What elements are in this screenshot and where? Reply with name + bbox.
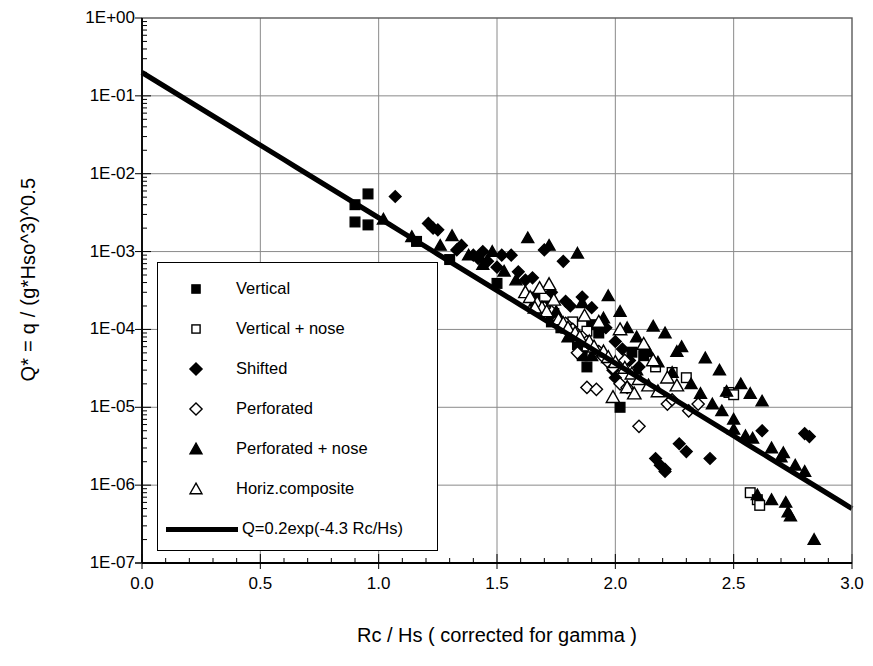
data-point-filled-triangle	[602, 290, 614, 301]
legend-marker-filled-diamond	[174, 349, 230, 389]
x-tick-label: 1.0	[349, 575, 409, 592]
data-point-open-diamond	[581, 381, 593, 393]
legend-marker-filled-triangle	[174, 429, 230, 469]
data-point-filled-diamond	[389, 191, 401, 203]
legend-label: Horiz.composite	[236, 479, 354, 498]
y-tick-label: 1E+00	[39, 9, 135, 26]
data-point-filled-triangle	[699, 352, 711, 363]
data-point-filled-triangle	[659, 327, 671, 338]
legend-item: Q=0.2exp(-4.3 Rc/Hs)	[158, 509, 439, 549]
data-point-filled-triangle	[706, 398, 718, 409]
data-point-filled-triangle	[647, 320, 659, 331]
data-point-filled-triangle	[780, 497, 792, 508]
legend-item: Shifted	[158, 349, 439, 389]
data-point-filled-triangle	[766, 442, 778, 453]
data-point-filled-triangle	[446, 230, 458, 241]
legend-line-swatch	[166, 527, 238, 532]
data-point-open-diamond	[590, 383, 602, 395]
series-horiz-composite	[519, 278, 684, 403]
y-tick-label: 1E-04	[39, 320, 135, 337]
x-tick-label: 0.0	[112, 575, 172, 592]
data-point-filled-square	[615, 402, 625, 412]
data-point-filled-square	[363, 220, 373, 230]
legend-item: Perforated + nose	[158, 429, 439, 469]
x-tick-label: 0.5	[230, 575, 290, 592]
data-point-filled-triangle	[713, 364, 725, 375]
data-point-filled-triangle	[777, 447, 789, 458]
data-point-filled-square	[582, 362, 592, 372]
data-point-open-diamond	[633, 420, 645, 432]
data-point-filled-diamond	[704, 453, 716, 465]
data-point-filled-triangle	[614, 306, 626, 317]
x-axis-tick-labels: 0.00.51.01.52.02.53.0	[0, 575, 873, 601]
legend-marker-glyph	[192, 285, 200, 293]
y-tick-label: 1E-02	[39, 165, 135, 182]
legend-marker-glyph	[190, 443, 202, 454]
legend-label: Perforated	[236, 399, 313, 418]
legend-label: Vertical	[236, 279, 290, 298]
data-point-filled-triangle	[571, 248, 583, 259]
legend-item: Vertical	[158, 269, 439, 309]
data-point-filled-triangle	[766, 494, 778, 505]
data-point-filled-square	[350, 217, 360, 227]
legend-label: Perforated + nose	[236, 439, 368, 458]
data-point-filled-diamond	[505, 249, 517, 261]
legend-item: Perforated	[158, 389, 439, 429]
legend-label: Vertical + nose	[236, 319, 345, 338]
legend-label: Q=0.2exp(-4.3 Rc/Hs)	[242, 519, 403, 538]
legend-marker-glyph	[192, 325, 200, 333]
data-point-open-triangle	[542, 278, 555, 290]
x-tick-label: 2.0	[585, 575, 645, 592]
x-tick-label: 2.5	[704, 575, 764, 592]
legend-item: Vertical + nose	[158, 309, 439, 349]
data-point-open-diamond	[692, 398, 704, 410]
x-axis-label: Rc / Hs ( corrected for gamma )	[141, 624, 853, 647]
data-point-filled-triangle	[735, 378, 747, 389]
y-tick-label: 1E-05	[39, 398, 135, 415]
data-point-filled-square	[363, 189, 373, 199]
data-point-open-triangle	[606, 391, 619, 403]
legend-label: Shifted	[236, 359, 287, 378]
data-point-open-square	[755, 501, 765, 511]
data-point-filled-triangle	[808, 534, 820, 545]
x-tick-label: 3.0	[822, 575, 873, 592]
legend-item: Horiz.composite	[158, 469, 439, 509]
legend-marker-glyph	[190, 363, 202, 375]
chart-legend: VerticalVertical + noseShiftedPerforated…	[157, 262, 438, 551]
data-point-filled-triangle	[522, 232, 534, 243]
data-point-filled-diamond	[756, 425, 768, 437]
y-tick-label: 1E-06	[39, 476, 135, 493]
data-point-filled-diamond	[557, 255, 569, 267]
data-point-filled-triangle	[695, 388, 707, 399]
legend-marker-open-square	[174, 309, 230, 349]
legend-marker-glyph	[190, 483, 202, 494]
data-point-filled-triangle	[756, 395, 768, 406]
series-perforated-nose	[377, 213, 820, 544]
overtopping-scatter-chart: Q* = q / (g*Hso^3)^0.5 Rc / Hs ( correct…	[0, 0, 873, 666]
data-point-filled-triangle	[434, 240, 446, 251]
legend-marker-open-diamond	[174, 389, 230, 429]
data-point-filled-triangle	[744, 388, 756, 399]
y-tick-label: 1E-03	[39, 243, 135, 260]
legend-marker-open-triangle	[174, 469, 230, 509]
y-axis-tick-labels: 1E+001E-011E-021E-031E-041E-051E-061E-07	[20, 0, 135, 666]
y-tick-label: 1E-01	[39, 87, 135, 104]
legend-marker-filled-square	[174, 269, 230, 309]
legend-marker-glyph	[190, 403, 202, 415]
y-tick-label: 1E-07	[39, 554, 135, 571]
x-tick-label: 1.5	[467, 575, 527, 592]
data-point-filled-diamond	[512, 266, 524, 278]
